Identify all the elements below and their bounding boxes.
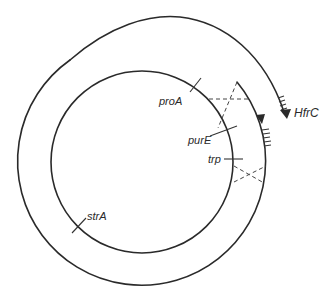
strain-label-hfrc: HfrC (294, 106, 319, 120)
gene-marker-proA: proA (158, 78, 201, 107)
hfr-chromosome-diagram: proA purE trp strA HfrC (0, 0, 336, 299)
gene-label-purE: purE (187, 134, 212, 146)
gene-label-proA: proA (158, 95, 182, 107)
gene-marker-trp: trp (208, 153, 243, 165)
gene-label-trp: trp (208, 153, 221, 165)
gene-label-strA: strA (87, 210, 107, 222)
donor-chromosome-ring (18, 60, 266, 285)
gene-marker-strA: strA (72, 210, 107, 233)
lower-crossover (234, 166, 266, 183)
